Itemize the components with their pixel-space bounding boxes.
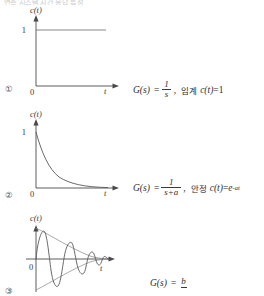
eq1-korean-term: 임계 [181, 84, 197, 96]
plot3-y-label: c(t) [30, 213, 42, 223]
eq3-numerator: b [178, 277, 189, 286]
eq1-equals: = [154, 85, 159, 95]
eq3-equals: = [171, 278, 176, 288]
plot1-x-label: t [104, 86, 107, 96]
eq1-result-value: 1 [219, 85, 224, 95]
eq2-numerator: 1 [166, 178, 177, 187]
plot-exponential-decay: c(t) t 1 0 [18, 112, 130, 196]
eq2-equals: = [154, 183, 159, 193]
eq2-result-lhs: c(t) [210, 183, 223, 193]
plot1-origin: 0 [30, 87, 34, 97]
eq3-lhs: G(s) [150, 278, 167, 288]
eq2-lhs: G(s) [133, 183, 150, 193]
eq1-lhs: G(s) [133, 85, 150, 95]
plot2-x-label: t [104, 188, 107, 198]
eq2-comma: , [183, 183, 185, 193]
row-index-1: ① [5, 84, 13, 94]
eq1-result-lhs: c(t) [200, 85, 213, 95]
plot3-origin: 0 [29, 262, 33, 272]
plot2-y-tick: 1 [22, 127, 26, 137]
eq1-comma: , [174, 85, 176, 95]
equation-row-3: G(s) = b [150, 276, 191, 290]
plot2-origin: 0 [30, 189, 34, 199]
plot1-y-label: c(t) [30, 5, 42, 15]
equation-row-2: G(s) = 1 s+a , 안정 c(t) = e -at [133, 178, 240, 197]
eq3-fraction: b [178, 277, 189, 287]
plot-step-response: c(t) t 1 0 [18, 8, 130, 94]
clipped-header-text: 연속 시스템 시간 응답 특성 [4, 0, 260, 5]
eq1-denominator: s [162, 89, 172, 99]
eq1-numerator: 1 [161, 80, 172, 89]
eq1-fraction: 1 s [161, 80, 172, 99]
eq2-korean-term: 안정 [191, 182, 207, 194]
eq2-result-exponent: -at [232, 184, 239, 191]
row-index-2: ② [5, 190, 13, 200]
eq2-denominator: s+a [161, 187, 181, 197]
row-index-3: ③ [5, 286, 13, 296]
plot3-x-label: t [100, 263, 103, 273]
equation-row-1: G(s) = 1 s , 임계 c(t) = 1 [133, 80, 223, 99]
eq2-fraction: 1 s+a [161, 178, 181, 197]
eq3-denominator [181, 287, 187, 288]
plot2-y-label: c(t) [30, 109, 42, 119]
plot1-y-tick: 1 [22, 25, 26, 35]
plot-damped-oscillation: c(t) t 0 [18, 222, 130, 294]
